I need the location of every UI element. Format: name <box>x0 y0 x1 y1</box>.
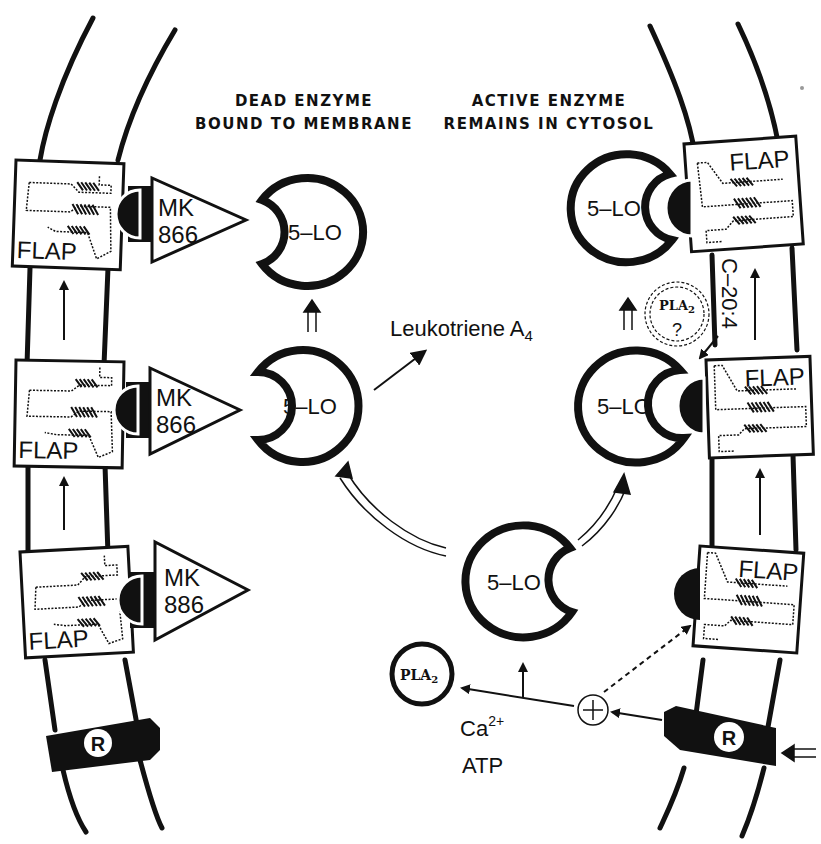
left-membrane-inner-top <box>118 30 175 160</box>
inhibitor-mk-2: MK 866 <box>114 368 240 454</box>
dotted-arrow-to-flap-icon <box>604 626 690 692</box>
right-membrane-seg <box>712 255 715 345</box>
right-membrane-outer-top <box>650 26 695 155</box>
right-membrane-seg <box>793 455 796 550</box>
stimulus-double-arrow-icon <box>782 745 816 761</box>
five-lo-active-top: 5–LO <box>571 154 692 262</box>
flap-binding-knob-empty <box>674 568 700 620</box>
plus-node <box>578 695 608 725</box>
right-membrane-seg <box>792 248 797 350</box>
five-lo-dead-bottom: 5–LO <box>258 350 358 462</box>
five-lo-label: 5–LO <box>288 220 342 245</box>
five-lo-active-middle: 5–LO <box>578 351 704 463</box>
flap-binding-knob <box>666 180 692 236</box>
right-membrane-outer-bottom <box>660 768 684 828</box>
inhibitor-label-line2: 886 <box>164 591 204 618</box>
left-membrane-outer-bottom <box>63 770 86 832</box>
left-membrane-outer-top <box>40 18 93 160</box>
five-lo-cytosolic: 5–LO <box>465 525 572 637</box>
flap-label: FLAP <box>16 236 77 265</box>
inhibitor-mk-1: MK 866 <box>116 178 246 262</box>
inhibitor-label-line2: 866 <box>158 221 198 248</box>
heading-right-line2: REMAINS IN CYTOSOL <box>444 115 655 133</box>
calcium-label: Ca2+ <box>460 713 504 741</box>
left-membrane-outer-seg <box>27 268 30 365</box>
speck <box>800 86 804 90</box>
flap-binding-knob <box>678 378 704 434</box>
right-flap-unit-3: FLAP <box>693 546 804 653</box>
right-membrane-inner-top <box>738 24 778 142</box>
left-flap-unit-1: FLAP <box>12 160 124 270</box>
flap-label: FLAP <box>28 625 89 655</box>
double-arrow-up-left <box>304 300 320 332</box>
right-membrane-inner-bottom <box>742 768 764 836</box>
atp-label: ATP <box>462 753 503 778</box>
left-membrane-inner-seg2 <box>105 465 108 555</box>
inhibitor-label-line1: MK <box>158 194 194 221</box>
right-flap-unit-1: FLAP <box>684 136 803 252</box>
inhibitor-mk-3: MK 886 <box>118 542 248 640</box>
leukotriene-label: Leukotriene A4 <box>390 316 533 344</box>
five-lo-label: 5–LO <box>487 570 541 595</box>
curved-double-arrow-left <box>336 462 446 556</box>
c20-4-label: C–20:4 <box>717 258 742 329</box>
five-lo-label: 5–LO <box>283 394 337 419</box>
left-membrane-inner-bottom <box>140 760 162 828</box>
pla2-question-dashed: PLA2 ? <box>645 282 709 346</box>
pla2-label: PLA2 <box>659 298 695 315</box>
double-arrow-up-right <box>620 298 636 330</box>
receptor-label: R <box>91 733 106 755</box>
flap-label: FLAP <box>18 436 78 464</box>
diagram-canvas: DEAD ENZYME BOUND TO MEMBRANE ACTIVE ENZ… <box>0 0 821 844</box>
leukotriene-pathway-diagram: DEAD ENZYME BOUND TO MEMBRANE ACTIVE ENZ… <box>0 0 821 844</box>
pla2-question-mark: ? <box>672 320 682 340</box>
left-membrane-outer-seg3 <box>45 660 55 730</box>
five-lo-label: 5–LO <box>597 394 651 419</box>
heading-right-line1: ACTIVE ENZYME <box>472 92 627 110</box>
five-lo-dead-top: 5–LO <box>262 178 363 286</box>
right-flap-unit-2: FLAP <box>706 356 813 458</box>
flap-label: FLAP <box>744 363 805 392</box>
inhibitor-label-line1: MK <box>156 384 192 411</box>
left-membrane-inner-seg3 <box>125 660 138 730</box>
inhibitor-label-line1: MK <box>164 564 200 591</box>
left-flap-unit-2: FLAP <box>14 360 124 468</box>
curved-double-arrow-right <box>578 474 630 546</box>
flap-label: FLAP <box>738 555 800 586</box>
flap-label: FLAP <box>728 145 790 176</box>
arrow-to-leukotriene-icon <box>374 352 424 390</box>
five-lo-label: 5–LO <box>587 196 641 221</box>
heading-right: ACTIVE ENZYME REMAINS IN CYTOSOL <box>444 92 655 133</box>
inhibitor-label-line2: 866 <box>156 411 196 438</box>
arrow-to-pla2-icon <box>462 688 574 706</box>
arrow-receptor-to-plus-icon <box>612 712 662 720</box>
receptor-label: R <box>722 727 737 749</box>
left-membrane-inner-seg <box>104 268 108 365</box>
heading-left-line1: DEAD ENZYME <box>235 92 373 110</box>
heading-left-line2: BOUND TO MEMBRANE <box>195 115 413 133</box>
receptor-right: R <box>664 706 776 766</box>
pla2-cytosolic: PLA2 <box>392 644 452 704</box>
left-flap-unit-3: FLAP <box>20 546 133 658</box>
heading-left: DEAD ENZYME BOUND TO MEMBRANE <box>195 92 413 133</box>
